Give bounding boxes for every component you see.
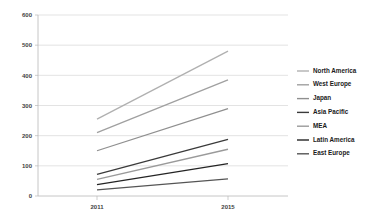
x-tick-label: 2011 (90, 204, 104, 210)
y-tick-label: 300 (22, 103, 33, 109)
y-tick-label: 500 (22, 42, 33, 48)
legend-label-asia-pacific[interactable]: Asia Pacific (313, 108, 349, 115)
legend-label-east-europe[interactable]: East Europe (313, 149, 350, 157)
legend-label-japan[interactable]: Japan (313, 94, 331, 102)
y-axis (35, 15, 38, 196)
x-tick-label: 2015 (221, 204, 235, 210)
series-line-east-europe (97, 179, 228, 190)
legend-label-latin-america[interactable]: Latin America (313, 136, 355, 143)
series-line-mea (97, 149, 228, 179)
y-tick-label: 0 (29, 193, 33, 199)
legend-label-mea[interactable]: MEA (313, 122, 327, 129)
y-tick-label: 400 (22, 73, 33, 79)
series-line-latin-america (97, 164, 228, 185)
series-lines (97, 51, 228, 190)
line-chart: 0100200300400500600 20112015 North Ameri… (0, 0, 368, 224)
y-tick-labels: 0100200300400500600 (22, 12, 33, 199)
legend-label-west-europe[interactable]: West Europe (313, 80, 352, 88)
x-tick-labels: 20112015 (90, 204, 235, 210)
y-tick-label: 200 (22, 133, 33, 139)
y-tick-label: 600 (22, 12, 33, 18)
series-line-north-america (97, 51, 228, 119)
series-line-west-europe (97, 80, 228, 133)
chart-canvas: 0100200300400500600 20112015 North Ameri… (0, 0, 368, 224)
x-axis (97, 196, 228, 200)
legend-label-north-america[interactable]: North America (313, 67, 357, 74)
y-tick-label: 100 (22, 163, 33, 169)
legend: North AmericaWest EuropeJapanAsia Pacifi… (297, 67, 357, 158)
